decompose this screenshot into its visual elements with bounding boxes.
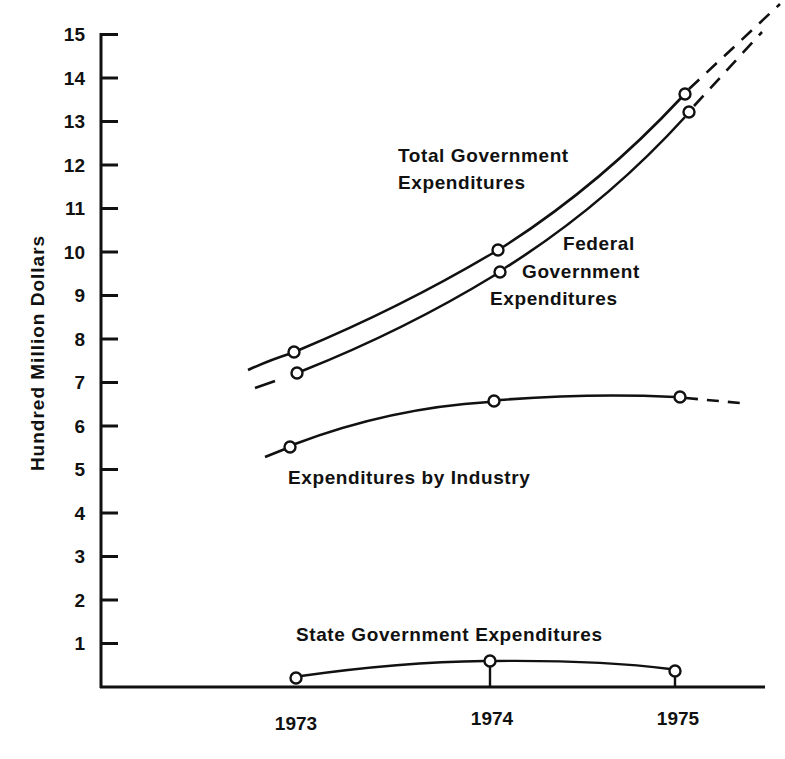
data-point — [495, 267, 506, 278]
data-point — [489, 396, 500, 407]
data-point — [675, 392, 686, 403]
data-point — [493, 245, 504, 256]
y-tick-label: 9 — [74, 285, 85, 306]
data-point — [485, 656, 496, 667]
series-total-government-markers — [289, 89, 691, 358]
series-industry — [265, 396, 740, 457]
data-point — [291, 673, 302, 684]
y-tick-label: 8 — [74, 329, 85, 350]
label-total-line1: Total Government — [398, 145, 569, 166]
y-tick-label: 12 — [64, 155, 85, 176]
line-chart: 1 2 3 4 5 6 7 8 9 10 11 12 13 14 15 Hund… — [0, 0, 785, 759]
data-point — [670, 666, 681, 677]
label-state: State Government Expenditures — [296, 624, 603, 645]
x-tick-label: 1973 — [275, 713, 317, 734]
x-tick-labels: 1973 1974 1975 — [275, 708, 700, 734]
label-federal-line2: Government — [522, 261, 640, 282]
y-tick-label: 15 — [64, 24, 86, 45]
label-industry: Expenditures by Industry — [288, 467, 530, 488]
data-point — [285, 442, 296, 453]
y-tick-label: 2 — [74, 590, 85, 611]
y-tick-label: 4 — [74, 503, 85, 524]
y-tick-labels: 1 2 3 4 5 6 7 8 9 10 11 12 13 14 15 — [64, 24, 86, 654]
y-tick-label: 7 — [74, 372, 85, 393]
data-point — [289, 347, 300, 358]
data-point — [684, 107, 695, 118]
series-federal-government — [255, 32, 762, 388]
y-tick-label: 5 — [74, 459, 85, 480]
data-point — [680, 89, 691, 100]
y-tick-label: 10 — [64, 242, 85, 263]
y-tick-label: 11 — [65, 198, 86, 219]
label-federal-line3: Expenditures — [490, 288, 618, 309]
y-tick-label: 3 — [74, 546, 85, 567]
y-axis-title: Hundred Million Dollars — [27, 235, 48, 471]
y-tick-label: 6 — [74, 416, 85, 437]
x-tick-label: 1974 — [471, 708, 514, 729]
y-tick-label: 1 — [74, 633, 85, 654]
y-tick-marks — [101, 35, 118, 644]
label-federal-line1: Federal — [563, 233, 635, 254]
y-tick-label: 13 — [64, 111, 85, 132]
y-tick-label: 14 — [64, 68, 86, 89]
label-total-line2: Expenditures — [398, 172, 526, 193]
data-point — [292, 368, 303, 379]
x-tick-label: 1975 — [657, 708, 700, 729]
series-industry-markers — [285, 392, 686, 453]
